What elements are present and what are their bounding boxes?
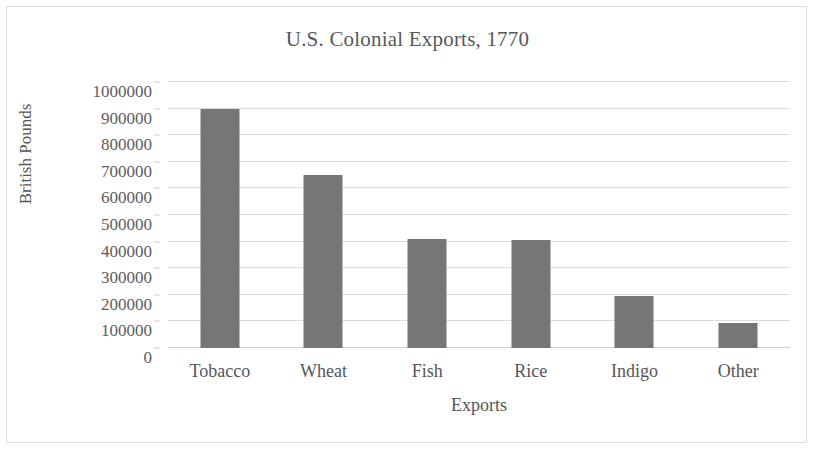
y-axis-tick-labels: 0100000200000300000400000500000600000700…	[40, 82, 160, 348]
bar-slot	[168, 82, 272, 348]
plot-area	[168, 82, 790, 348]
x-axis-tick-label-indigo: Indigo	[583, 361, 687, 382]
bar-indigo[interactable]	[615, 296, 654, 348]
x-axis-tick-label-tobacco: Tobacco	[168, 361, 272, 382]
x-axis-tick-label-other: Other	[686, 361, 790, 382]
y-axis-tick-mark	[154, 348, 160, 349]
x-axis-tick-label-fish: Fish	[375, 361, 479, 382]
y-axis-tick-mark	[154, 215, 160, 216]
bar-slot	[686, 82, 790, 348]
bar-slot	[583, 82, 687, 348]
y-axis-tick-mark	[154, 188, 160, 189]
x-axis-tick-label-rice: Rice	[479, 361, 583, 382]
x-axis-tick-labels: TobaccoWheatFishRiceIndigoOther	[168, 361, 790, 387]
y-axis-label: British Pounds	[16, 64, 36, 244]
y-axis-tick-mark	[154, 135, 160, 136]
y-axis-tick-mark	[154, 82, 160, 83]
x-axis-label: Exports	[168, 395, 790, 416]
bar-tobacco[interactable]	[200, 109, 239, 348]
bar-rice[interactable]	[511, 240, 550, 348]
bar-slot	[479, 82, 583, 348]
chart-title: U.S. Colonial Exports, 1770	[0, 27, 815, 52]
y-axis-tick-mark	[154, 241, 160, 242]
bar-series	[168, 82, 790, 348]
y-axis-tick-mark	[154, 161, 160, 162]
chart-figure: U.S. Colonial Exports, 1770 British Poun…	[0, 0, 815, 451]
y-axis-tick-mark	[154, 321, 160, 322]
bar-slot	[272, 82, 376, 348]
bar-fish[interactable]	[408, 239, 447, 348]
bar-wheat[interactable]	[304, 175, 343, 348]
y-axis-tick-mark	[154, 108, 160, 109]
bar-slot	[375, 82, 479, 348]
y-axis-tick-mark	[154, 268, 160, 269]
y-axis-tick-mark	[154, 294, 160, 295]
bar-other[interactable]	[719, 323, 758, 348]
x-axis-tick-label-wheat: Wheat	[272, 361, 376, 382]
